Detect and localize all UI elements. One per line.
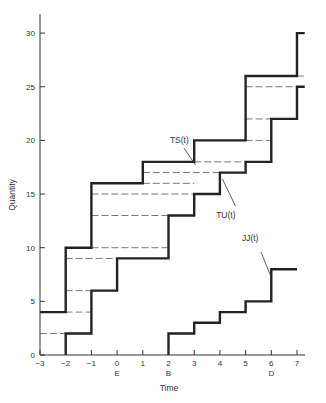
x-tick-label: 1 — [141, 359, 146, 368]
x-tick-label: 4 — [218, 359, 223, 368]
y-tick-label: 25 — [26, 83, 35, 92]
x-tick-label: −1 — [87, 359, 97, 368]
y-axis-label: Quantity — [7, 178, 17, 210]
x-sub-label: D — [268, 369, 274, 378]
y-tick-label: 30 — [26, 29, 35, 38]
x-tick-label: −3 — [35, 359, 45, 368]
x-tick-label: 3 — [192, 359, 197, 368]
series-label: TS(t) — [170, 135, 189, 145]
x-tick-label: 0 — [115, 359, 120, 368]
series-labels: TS(t)TU(t)JJ(t) — [170, 135, 270, 275]
x-tick-label: 7 — [295, 359, 300, 368]
x-sub-label: E — [114, 369, 119, 378]
y-tick-label: 15 — [26, 190, 35, 199]
x-axis-label: Time — [160, 383, 179, 393]
y-tick-label: 20 — [26, 136, 35, 145]
y-ticks: 051015202530 — [26, 29, 45, 360]
series-label: TU(t) — [216, 210, 236, 220]
x-tick-label: −2 — [61, 359, 71, 368]
series-jjt — [169, 269, 298, 355]
x-tick-label: 6 — [269, 359, 274, 368]
x-sub-label: B — [166, 369, 171, 378]
step-chart: 051015202530 −3−2−101234567EBD TS(t)TU(t… — [0, 0, 326, 403]
series-label: JJ(t) — [242, 233, 259, 243]
x-tick-label: 2 — [166, 359, 171, 368]
dashed-levels — [40, 76, 305, 334]
y-tick-label: 5 — [31, 297, 36, 306]
series-tst — [40, 33, 305, 312]
series-tut — [66, 87, 305, 355]
x-tick-label: 5 — [243, 359, 248, 368]
y-tick-label: 10 — [26, 244, 35, 253]
